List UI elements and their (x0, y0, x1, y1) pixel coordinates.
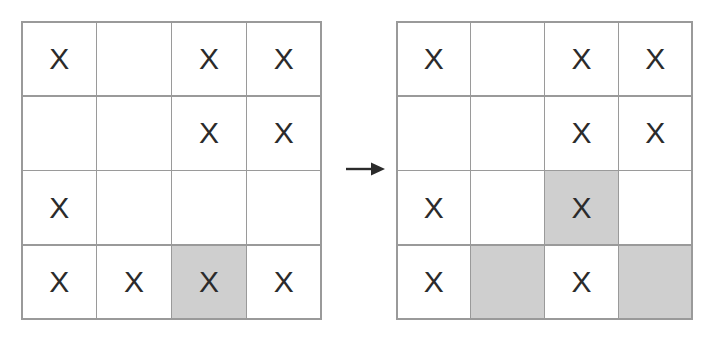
grid-cell[interactable]: X (247, 23, 320, 96)
grid-cell[interactable]: X (545, 246, 617, 319)
grid-cell[interactable]: X (23, 171, 96, 244)
before-grid: XXXXXXXXXX (21, 21, 322, 320)
grid-cell[interactable] (97, 23, 170, 96)
grid-cell[interactable]: X (247, 97, 320, 170)
grid-cell[interactable]: X (545, 23, 617, 96)
grid-cell[interactable] (471, 171, 543, 244)
x-mark: X (49, 193, 69, 223)
x-mark: X (49, 267, 69, 297)
x-mark: X (571, 44, 591, 74)
grid-cell[interactable]: X (545, 97, 617, 170)
grid-cell[interactable] (97, 171, 170, 244)
x-mark: X (571, 118, 591, 148)
grid-cell[interactable] (172, 171, 245, 244)
after-grid: XXXXXXXXX (396, 21, 693, 320)
grid-cell[interactable] (398, 97, 470, 170)
grid-cell[interactable] (23, 97, 96, 170)
grid-cell[interactable]: X (172, 97, 245, 170)
grid-cell[interactable]: X (97, 246, 170, 319)
x-mark: X (274, 44, 294, 74)
x-mark: X (199, 44, 219, 74)
x-mark: X (424, 44, 444, 74)
grid-cell[interactable]: X (545, 171, 617, 244)
grid-cell[interactable] (471, 23, 543, 96)
x-mark: X (424, 193, 444, 223)
x-mark: X (49, 44, 69, 74)
grid-cell[interactable]: X (23, 23, 96, 96)
grid-cell[interactable]: X (398, 23, 470, 96)
grid-cell[interactable] (471, 97, 543, 170)
grid-cell[interactable]: X (619, 23, 691, 96)
grid-cell[interactable] (97, 97, 170, 170)
grid-cell[interactable]: X (172, 23, 245, 96)
x-mark: X (124, 267, 144, 297)
x-mark: X (645, 44, 665, 74)
arrow-right-icon (345, 160, 387, 178)
grid-cell[interactable] (247, 171, 320, 244)
x-mark: X (199, 118, 219, 148)
x-mark: X (571, 193, 591, 223)
grid-cell[interactable] (619, 246, 691, 319)
grid-cell[interactable]: X (619, 97, 691, 170)
x-mark: X (274, 267, 294, 297)
grid-cell[interactable]: X (247, 246, 320, 319)
grid-cell[interactable]: X (398, 171, 470, 244)
grid-cell[interactable] (471, 246, 543, 319)
transformation-figure: XXXXXXXXXX XXXXXXXXX (0, 0, 710, 341)
x-mark: X (424, 267, 444, 297)
x-mark: X (645, 118, 665, 148)
x-mark: X (274, 118, 294, 148)
x-mark: X (199, 267, 219, 297)
x-mark: X (571, 267, 591, 297)
grid-cell[interactable]: X (23, 246, 96, 319)
grid-cell[interactable]: X (172, 246, 245, 319)
grid-cell[interactable] (619, 171, 691, 244)
grid-cell[interactable]: X (398, 246, 470, 319)
